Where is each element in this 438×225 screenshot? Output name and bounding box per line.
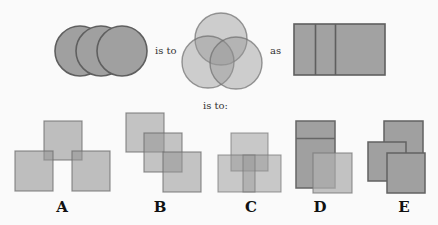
analogy-puzzle: is to as is to: A B C D E: [0, 0, 438, 225]
option-e-figure[interactable]: [368, 121, 425, 193]
option-b-figure[interactable]: [126, 113, 201, 192]
puzzle-figures: [0, 0, 438, 225]
option-a-label[interactable]: A: [56, 198, 68, 216]
figure-venn-circles: [182, 13, 262, 89]
connector-is-to-colon: is to:: [203, 100, 228, 111]
option-c-label[interactable]: C: [245, 198, 257, 216]
option-d-label[interactable]: D: [313, 198, 326, 216]
option-b-label[interactable]: B: [154, 198, 167, 216]
connector-is-to: is to: [155, 45, 177, 56]
option-e-label[interactable]: E: [398, 198, 409, 216]
option-c-figure[interactable]: [218, 133, 281, 192]
option-a-figure[interactable]: [15, 121, 110, 191]
figure-divided-rectangle: [294, 24, 385, 75]
figure-three-opaque-circles: [55, 26, 147, 76]
option-d-figure[interactable]: [296, 121, 352, 193]
connector-as: as: [270, 45, 281, 56]
